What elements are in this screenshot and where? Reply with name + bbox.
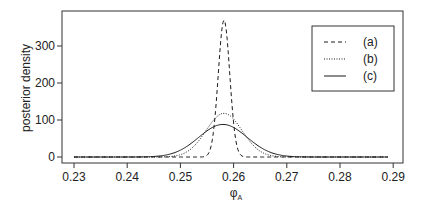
- x-tick-label: 0.27: [275, 170, 299, 184]
- svg-text:(a): (a): [363, 35, 378, 49]
- y-tick-label: 100: [35, 113, 55, 127]
- x-tick-label: 0.23: [62, 170, 86, 184]
- series-line-dotted: [74, 113, 388, 157]
- x-tick-label: 0.26: [222, 170, 246, 184]
- x-tick-label: 0.25: [169, 170, 193, 184]
- legend: (a) (b) (c): [312, 26, 394, 91]
- svg-text:(b): (b): [363, 52, 378, 66]
- x-tick-label: 0.29: [382, 170, 406, 184]
- y-tick-label: 0: [48, 150, 55, 164]
- y-axis-label: posterior density: [19, 44, 33, 132]
- posterior-density-chart: 0100200300 0.230.240.250.260.270.280.29 …: [0, 0, 425, 207]
- y-tick-label: 200: [35, 76, 55, 90]
- x-axis-label: φA: [230, 186, 243, 201]
- y-tick-label: 300: [35, 39, 55, 53]
- x-tick-label: 0.28: [328, 170, 352, 184]
- y-axis: 0100200300: [35, 39, 62, 164]
- svg-text:(c): (c): [363, 69, 377, 83]
- series-line-solid: [74, 124, 388, 157]
- x-axis: 0.230.240.250.260.270.280.29: [62, 163, 405, 184]
- x-tick-label: 0.24: [116, 170, 140, 184]
